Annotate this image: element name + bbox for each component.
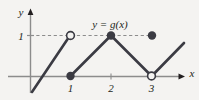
x-tick-label-1: 1 [68,82,74,94]
endpoint-markers [66,31,156,80]
curve-segment-3 [111,36,152,77]
y-axis-arrowhead [28,9,34,16]
filled-point-3-1 [148,31,156,39]
graph-canvas: y x 1 1 2 3 y = g(x) [0,0,199,100]
y-tick-label-1: 1 [18,30,24,42]
function-label: y = g(x) [91,18,128,31]
y-axis-group [27,9,34,94]
curve-segment-1 [32,36,70,93]
curve-segment-4 [152,43,184,76]
filled-point-2-1 [107,31,115,39]
x-axis-label: x [189,67,195,79]
function-graph-figure: y x 1 1 2 3 y = g(x) [0,0,199,100]
x-axis-arrowhead [179,74,186,80]
curve-segment-2 [71,36,112,77]
open-point-1-1 [67,32,75,40]
filled-point-1-0 [66,72,74,80]
x-tick-label-2: 2 [108,82,114,94]
x-axis-group [8,74,185,80]
y-axis-label: y [18,6,24,18]
open-point-3-0 [148,72,156,80]
x-tick-label-3: 3 [148,82,155,94]
